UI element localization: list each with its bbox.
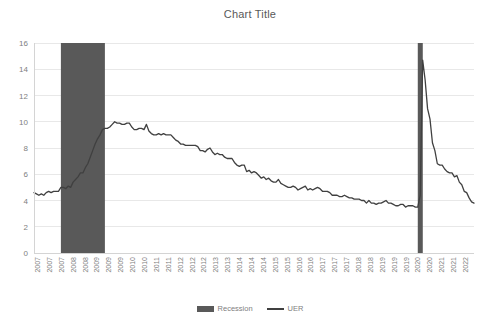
x-axis-tick-label: 2018 (367, 257, 374, 273)
x-axis-tick-label: 2014 (260, 257, 267, 273)
y-axis-tick-label: 10 (19, 118, 28, 127)
x-axis-tick-label: 2021 (438, 257, 445, 273)
y-axis-tick-label: 6 (24, 170, 29, 179)
x-axis-tick-label: 2012 (177, 257, 184, 273)
x-axis-tick-label: 2016 (307, 257, 314, 273)
recession-swatch-icon (197, 306, 214, 312)
y-axis-tick-label: 12 (19, 92, 28, 101)
x-axis-tick-label: 2019 (391, 257, 398, 273)
x-axis-tick-label: 2015 (272, 257, 279, 273)
x-axis-tick-label: 2009 (105, 257, 112, 273)
legend-item-recession[interactable]: Recession (197, 304, 253, 313)
x-axis-tick-label: 2009 (93, 257, 100, 273)
x-axis-tick-label: 2020 (426, 257, 433, 273)
x-axis-tick-label: 2012 (189, 257, 196, 273)
x-axis-tick-label: 2014 (248, 257, 255, 273)
chart-legend: Recession UER (0, 304, 500, 313)
legend-label-uer: UER (288, 304, 304, 313)
y-axis-tick-label: 2 (24, 223, 29, 232)
x-axis-tick-label: 2021 (450, 257, 457, 273)
x-axis-tick-label: 2017 (319, 257, 326, 273)
x-axis-tick-label: 2013 (224, 257, 231, 273)
x-axis-tick-label: 2019 (379, 257, 386, 273)
y-axis-labels-group: 0246810121416 (19, 39, 28, 258)
x-axis-tick-label: 2011 (165, 257, 172, 272)
legend-label-recession: Recession (218, 304, 253, 313)
x-axis-tick-label: 2007 (46, 257, 53, 273)
legend-item-uer[interactable]: UER (267, 304, 304, 313)
x-axis-tick-label: 2014 (236, 257, 243, 273)
y-axis-tick-label: 8 (24, 144, 29, 153)
x-axis-tick-label: 2010 (129, 257, 136, 273)
x-axis-tick-label: 2008 (70, 257, 77, 273)
x-axis-tick-label: 2011 (153, 257, 160, 272)
recession-band (61, 43, 105, 253)
x-axis-tick-label: 2017 (343, 257, 350, 273)
x-axis-tick-label: 2020 (414, 257, 421, 273)
x-axis-tick-label: 2010 (141, 257, 148, 273)
chart-plot-area: 0246810121416 20072007200720082008200920… (0, 0, 500, 319)
chart-container: Chart Title 0246810121416 20072007200720… (0, 0, 500, 319)
y-axis-tick-label: 14 (19, 65, 28, 74)
x-axis-tick-label: 2019 (403, 257, 410, 273)
y-axis-tick-label: 4 (24, 197, 29, 206)
y-axis-tick-label: 0 (24, 249, 29, 258)
x-axis-labels-group: 2007200720072008200820092009200920102010… (34, 257, 469, 273)
x-axis-tick-label: 2013 (212, 257, 219, 273)
x-axis-tick-label: 2007 (58, 257, 65, 273)
uer-line-swatch-icon (267, 308, 284, 310)
x-axis-tick-label: 2018 (355, 257, 362, 273)
x-axis-tick-label: 2012 (200, 257, 207, 273)
x-axis-tick-label: 2008 (82, 257, 89, 273)
x-axis-tick-label: 2015 (284, 257, 291, 273)
x-axis-tick-label: 2017 (331, 257, 338, 273)
x-axis-tick-label: 2007 (34, 257, 41, 273)
x-axis-tick-label: 2016 (296, 257, 303, 273)
x-axis-tick-label: 2009 (117, 257, 124, 273)
y-axis-tick-label: 16 (19, 39, 28, 48)
x-axis-tick-label: 2022 (462, 257, 469, 273)
